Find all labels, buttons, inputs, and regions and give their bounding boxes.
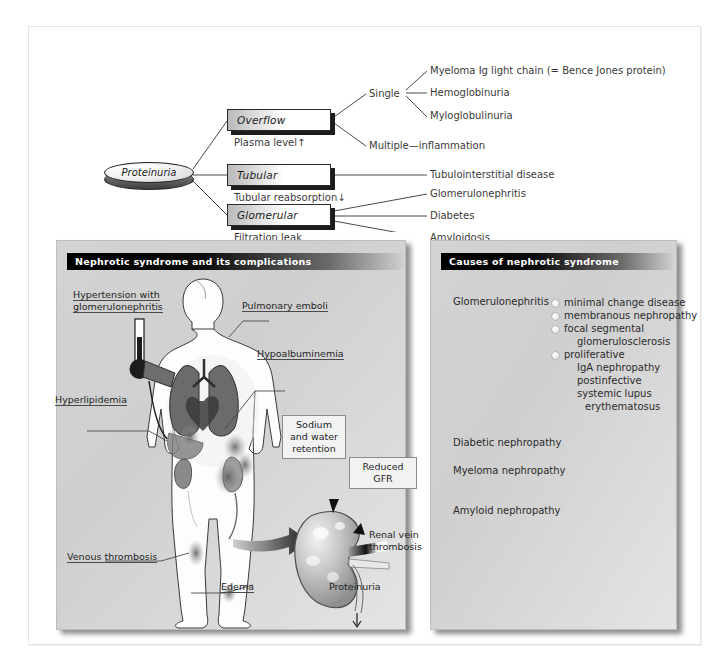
page-frame: Proteinuria Overflow Plasma level↑ Tubul… [28, 26, 701, 645]
flow-node-overflow-label: Overflow [237, 114, 285, 126]
cause-group-amyloid-nephropathy: Amyloid nephropathy [453, 505, 561, 516]
proteinuria-flowchart: Proteinuria Overflow Plasma level↑ Tubul… [29, 27, 700, 232]
bullet-dot-icon [551, 299, 560, 308]
anno-pulmonary-emboli: Pulmonary emboli [242, 300, 328, 312]
panel-causes-nephrotic-syndrome: Causes of nephrotic syndrome Glomerulone… [430, 240, 677, 630]
list-item: postinfective [551, 374, 697, 387]
list-item-label: systemic lupus [577, 388, 652, 399]
flow-node-glomerular[interactable]: Glomerular [227, 204, 331, 226]
list-item-label: postinfective [577, 375, 642, 386]
callout-sodium-line3: retention [287, 443, 341, 455]
list-item: IgA nephropathy [551, 361, 697, 374]
cause-group-myeloma-nephropathy: Myeloma nephropathy [453, 465, 565, 476]
list-item: minimal change disease [551, 296, 697, 309]
list-item: proliferative [551, 348, 697, 361]
flow-leaf-myeloma-light-chain: Myeloma Ig light chain (= Bence Jones pr… [430, 65, 666, 76]
bullet-dot-icon [551, 351, 560, 360]
list-item-label: minimal change disease [564, 297, 685, 308]
anno-edema: Edema [221, 581, 254, 593]
callout-sodium-line2: and water [287, 431, 341, 443]
flow-node-proteinuria-label: Proteinuria [122, 167, 177, 178]
flow-leaf-glomerulonephritis: Glomerulonephritis [430, 188, 526, 199]
flow-node-tubular[interactable]: Tubular [227, 164, 331, 186]
panel-right-header: Causes of nephrotic syndrome [441, 253, 673, 270]
list-item-label: membranous nephropathy [564, 310, 697, 321]
list-item-label: IgA nephropathy [577, 362, 660, 373]
flow-leaf-diabetes: Diabetes [430, 210, 474, 221]
flow-branch-multiple: Multiple—inflammation [369, 140, 485, 151]
list-item: focal segmental [551, 322, 697, 335]
list-item-label: erythematosus [585, 401, 660, 412]
flow-leaf-myloglobulinuria: Myloglobulinuria [430, 110, 513, 121]
callout-gfr-line1: Reduced GFR [354, 461, 412, 485]
flow-leaf-tubulointerstitial-disease: Tubulointerstitial disease [430, 169, 554, 180]
list-item: membranous nephropathy [551, 309, 697, 322]
callout-sodium-line1: Sodium [287, 419, 341, 431]
cause-group-glomerulonephritis: Glomerulonephritis [453, 296, 549, 307]
cause-group-diabetic-nephropathy: Diabetic nephropathy [453, 437, 561, 448]
flow-node-proteinuria[interactable]: Proteinuria [104, 162, 192, 188]
gn-subtype-list: minimal change disease membranous nephro… [551, 296, 697, 413]
disc-face: Proteinuria [104, 162, 194, 183]
flow-sublabel-overflow: Plasma level↑ [234, 137, 305, 148]
list-item: systemic lupus [551, 387, 697, 400]
panel-right-title: Causes of nephrotic syndrome [449, 256, 619, 267]
flow-node-overflow[interactable]: Overflow [227, 109, 331, 131]
flow-leaf-hemoglobinuria: Hemoglobinuria [430, 87, 510, 98]
anno-hypertension-line2: glomerulonephritis [73, 301, 163, 313]
flow-node-tubular-label: Tubular [237, 169, 277, 181]
anno-hyperlipidemia: Hyperlipidemia [55, 394, 127, 406]
list-item-label: glomerulosclerosis [577, 336, 670, 347]
flow-node-glomerular-label: Glomerular [237, 209, 298, 221]
flowchart-connectors [29, 27, 700, 232]
list-item: erythematosus [551, 400, 697, 413]
anno-proteinuria: Proteinuria [329, 581, 381, 592]
anno-hypertension-line1: Hypertension with [73, 289, 160, 301]
flow-branch-single: Single [369, 88, 400, 99]
flow-sublabel-tubular: Tubular reabsorption↓ [234, 192, 346, 203]
bullet-dot-icon [551, 325, 560, 334]
list-item-label: proliferative [564, 349, 625, 360]
anno-hypoalbuminemia: Hypoalbuminemia [257, 348, 344, 360]
callout-reduced-gfr: Reduced GFR [349, 457, 417, 489]
bullet-dot-icon [551, 312, 560, 321]
list-item-label: focal segmental [564, 323, 644, 334]
anno-venous-thrombosis: Venous thrombosis [67, 551, 157, 563]
anno-renal-vein-line1: Renal vein [369, 529, 419, 540]
list-item: glomerulosclerosis [551, 335, 697, 348]
callout-sodium-water-retention: Sodium and water retention [282, 415, 346, 459]
anno-renal-vein-line2: thrombosis [369, 541, 422, 552]
panel-nephrotic-syndrome: Nephrotic syndrome and its complications [56, 240, 406, 630]
